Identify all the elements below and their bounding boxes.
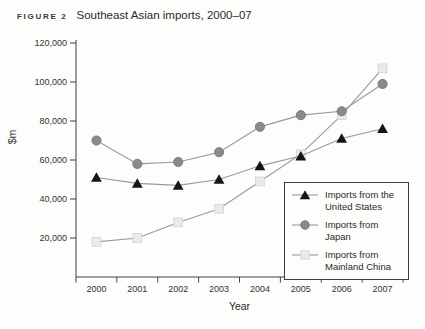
data-point-china — [92, 238, 101, 247]
data-point-us — [91, 172, 102, 182]
x-tick-label: 2001 — [127, 284, 147, 294]
circle-marker-icon — [301, 221, 310, 230]
legend: Imports from the United States Imports f… — [284, 182, 409, 280]
data-point-china — [174, 218, 183, 227]
figure-caption: FIGURE 2 Southeast Asian imports, 2000–0… — [17, 9, 252, 21]
data-point-japan — [214, 148, 223, 157]
us-legend-swatch — [292, 189, 318, 201]
china-legend-swatch — [292, 249, 318, 261]
data-point-japan — [133, 159, 142, 168]
legend-label-china: Imports from Mainland China — [325, 249, 391, 273]
y-tick-label: 60,000 — [39, 155, 67, 165]
x-tick-label: 2004 — [250, 284, 270, 294]
data-point-china — [378, 64, 387, 73]
legend-text-line: Imports from — [325, 249, 391, 261]
series-us — [91, 124, 388, 190]
legend-text-line: Mainland China — [325, 261, 391, 273]
legend-text-line: Imports from the — [325, 189, 394, 201]
data-point-japan — [296, 111, 305, 120]
y-tick-label: 100,000 — [34, 77, 67, 87]
square-marker-icon — [301, 251, 309, 259]
x-tick-label: 2007 — [373, 284, 393, 294]
y-axis-title: $m — [6, 129, 18, 144]
x-tick-label: 2006 — [332, 284, 352, 294]
y-tick-label: 120,000 — [34, 38, 67, 48]
x-tick-label: 2000 — [86, 284, 106, 294]
x-tick-label: 2002 — [168, 284, 188, 294]
legend-text-line: Imports from Japan — [325, 219, 404, 243]
data-point-japan — [92, 136, 101, 145]
legend-label-japan: Imports from Japan — [325, 219, 404, 243]
figure-label: FIGURE 2 — [17, 12, 68, 21]
data-point-china — [215, 204, 224, 213]
figure-container: FIGURE 2 Southeast Asian imports, 2000–0… — [0, 0, 425, 329]
x-tick-label: 2003 — [209, 284, 229, 294]
x-tick-label: 2005 — [291, 284, 311, 294]
legend-item-japan: Imports from Japan — [292, 219, 404, 243]
data-point-japan — [337, 107, 346, 116]
legend-item-us: Imports from the United States — [292, 189, 404, 213]
series-line-japan — [96, 84, 382, 164]
y-tick-label: 20,000 — [39, 233, 67, 243]
y-axis-ticks: 20,00040,00060,00080,000100,000120,000 — [34, 38, 76, 243]
legend-text-line: United States — [325, 201, 394, 213]
data-point-china — [133, 234, 142, 243]
data-point-japan — [174, 157, 183, 166]
y-tick-label: 80,000 — [39, 116, 67, 126]
data-point-us — [214, 174, 225, 184]
data-point-japan — [255, 122, 264, 131]
data-point-us — [377, 124, 388, 134]
figure-title: Southeast Asian imports, 2000–07 — [77, 9, 252, 21]
legend-item-china: Imports from Mainland China — [292, 249, 404, 273]
x-axis-title: Year — [229, 300, 251, 312]
data-point-japan — [378, 79, 387, 88]
legend-label-us: Imports from the United States — [325, 189, 394, 213]
japan-legend-swatch — [292, 219, 318, 231]
data-point-china — [256, 177, 265, 186]
series-japan — [92, 79, 387, 168]
y-tick-label: 40,000 — [39, 194, 67, 204]
